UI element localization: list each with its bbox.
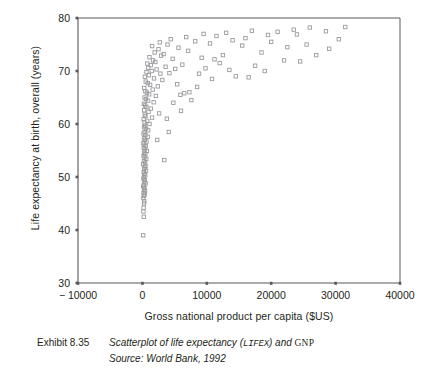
x-tick-mark [334,282,337,285]
scatter-point [148,56,151,59]
caption-line1-pre: Scatterplot of life expectancy ( [109,337,243,348]
scatter-point [298,60,301,63]
scatter-point [194,40,197,43]
scatter-point [156,138,159,141]
scatter-point [156,85,159,88]
scatter-point [213,58,216,61]
scatter-point [183,92,186,95]
x-tick-mark [399,282,402,285]
scatter-point [152,101,155,104]
scatter-point [167,130,170,133]
scatter-point [181,63,184,66]
scatter-point [305,43,308,46]
x-tick-label: 40000 [385,289,414,300]
scatter-point [166,43,169,46]
scatter-point [175,83,178,86]
scatter-point [190,98,193,101]
plot-frame [78,18,400,283]
y-axis-title: Life expectancy at birth, overall (years… [26,0,44,288]
figure-caption: Exhibit 8.35 Scatterplot of life expecta… [37,336,427,365]
scatter-point [150,44,153,47]
scatter-point [163,158,166,161]
scatter-point [344,25,347,28]
scatter-points [141,25,346,237]
scatter-point [157,48,160,51]
scatter-point [143,75,146,78]
y-tick-label: 40 [58,224,70,236]
scatter-point [250,29,253,32]
scatter-point [224,31,227,34]
x-tick-label: 0 [139,289,145,300]
scatter-point [286,45,289,48]
scatter-point [179,109,182,112]
scatter-point [154,94,157,97]
caption-exhibit-label: Exhibit 8.35 [37,336,109,350]
x-tick-label: 30000 [321,289,350,300]
scatter-point [158,41,161,44]
y-tick-label: 80 [58,12,70,24]
scatter-point [241,44,244,47]
y-tick-label: 30 [58,277,70,289]
scatter-point [172,101,175,104]
scatter-point [247,76,250,79]
scatter-point [164,65,167,68]
scatter-point [315,53,318,56]
caption-text: Scatterplot of life expectancy (LIFEX) a… [109,336,427,365]
scatter-point [208,42,211,45]
scatter-point [197,72,200,75]
x-tick-mark [270,282,273,285]
y-tick-label: 60 [58,118,70,130]
scatter-point [142,215,145,218]
figure-container: 304050607080− 10000010000200003000040000… [0,0,440,378]
scatter-point [188,91,191,94]
scatter-point [168,71,171,74]
scatter-point [152,77,155,80]
x-tick-label: − 10000 [59,289,97,300]
x-axis-title: Gross national product per capita ($US) [78,310,400,322]
y-tick-mark [76,70,79,73]
scatter-point [231,39,234,42]
scatter-point [282,59,285,62]
scatter-point [327,47,330,50]
scatter-point [195,85,198,88]
x-tick-label: 10000 [192,289,221,300]
caption-line1-mid: ) and [269,337,295,348]
scatter-point [260,51,263,54]
scatter-point [218,61,221,64]
scatter-point [171,57,174,60]
scatter-point [161,78,164,81]
y-tick-mark [76,229,79,232]
y-tick-mark [76,17,79,20]
scatter-point [221,53,224,56]
scatter-point [151,88,154,91]
y-tick-mark [76,123,79,126]
scatter-point [228,68,231,71]
scatter-point [270,40,273,43]
scatter-point [155,68,158,71]
x-axis-ticks: − 10000010000200003000040000 [59,282,415,300]
scatter-point [234,75,237,78]
scatter-point [157,112,160,115]
scatter-point [146,62,149,65]
scatter-point [202,32,205,35]
scatter-point [263,69,266,72]
scatter-point [324,30,327,33]
x-tick-mark [77,282,80,285]
caption-code-lifex: LIFEX [243,339,269,349]
x-tick-label: 20000 [257,289,286,300]
scatter-point [177,46,180,49]
scatter-point [165,117,168,120]
y-tick-label: 50 [58,171,70,183]
x-tick-mark [141,282,144,285]
scatter-point [276,30,279,33]
scatter-point [150,69,153,72]
scatter-point [186,49,189,52]
scatter-point [169,38,172,41]
scatter-point [153,51,156,54]
caption-line-2: Source: World Bank, 1992 [109,352,427,366]
scatter-point [215,34,218,37]
caption-code-gnp: GNP [295,338,315,348]
scatterplot-chart: 304050607080− 10000010000200003000040000 [0,0,440,300]
scatter-point [292,28,295,31]
x-tick-mark [206,282,209,285]
